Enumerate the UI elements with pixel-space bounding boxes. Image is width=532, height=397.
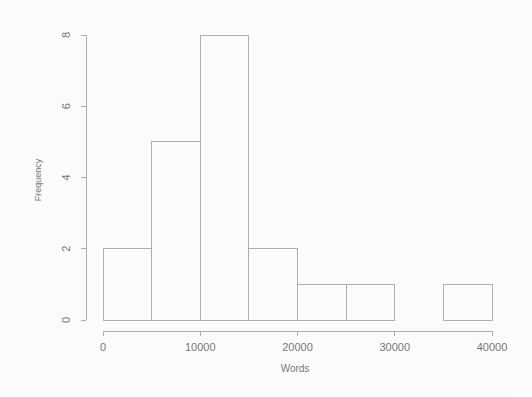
histogram-bar bbox=[152, 142, 201, 320]
y-tick-label: 8 bbox=[60, 32, 72, 38]
x-tick-label: 0 bbox=[100, 341, 106, 353]
histogram-bar bbox=[346, 284, 395, 320]
y-tick-label: 6 bbox=[60, 103, 72, 109]
histogram-plot: 02468 010000200003000040000 Words Freque… bbox=[0, 0, 532, 397]
x-tick-label: 10000 bbox=[185, 341, 216, 353]
y-tick-label: 0 bbox=[60, 317, 72, 323]
histogram-bar bbox=[249, 249, 298, 320]
y-axis bbox=[81, 35, 86, 320]
x-tick-label: 40000 bbox=[477, 341, 508, 353]
histogram-bar bbox=[443, 284, 492, 320]
histogram-bars bbox=[103, 35, 492, 320]
histogram-figure: 02468 010000200003000040000 Words Freque… bbox=[0, 0, 532, 397]
y-tick-label: 2 bbox=[60, 246, 72, 252]
y-tick-label: 4 bbox=[60, 174, 72, 180]
histogram-bar bbox=[103, 249, 152, 320]
x-tick-label: 20000 bbox=[282, 341, 313, 353]
histogram-bar bbox=[200, 35, 249, 320]
x-tick-label: 30000 bbox=[379, 341, 410, 353]
y-tick-labels: 02468 bbox=[60, 32, 72, 323]
x-axis bbox=[103, 331, 492, 336]
x-axis-title: Words bbox=[281, 363, 310, 374]
y-axis-title: Frequency bbox=[33, 158, 43, 201]
x-tick-labels: 010000200003000040000 bbox=[100, 341, 507, 353]
histogram-bar bbox=[298, 284, 347, 320]
